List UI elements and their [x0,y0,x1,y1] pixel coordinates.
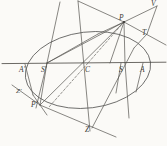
label-S-prime: S' [41,66,46,74]
line-Zprime-Pprime-produced [12,85,116,137]
geometry-figure: A' S' C S A P V T Z' P' Z [0,0,167,146]
chord-Pprime-Sprime [40,2,60,105]
label-P-prime: P' [31,101,37,109]
label-Z: Z [85,126,89,134]
label-P: P [119,14,124,22]
chord-T-to-Z [92,48,134,128]
label-S: S [119,66,123,74]
label-A: A [140,66,145,74]
label-T: T [142,29,146,37]
label-A-prime: A' [19,66,25,74]
label-V: V [151,0,156,8]
label-Z-prime: Z' [16,88,21,95]
line-P-V-T [134,6,157,48]
label-C: C [85,66,90,74]
